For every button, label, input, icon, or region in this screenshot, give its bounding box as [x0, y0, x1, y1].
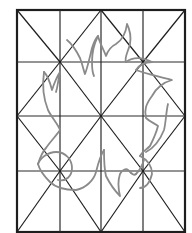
diagonal-line [60, 62, 101, 116]
flame-swirl [38, 152, 72, 180]
diagonal-line [60, 10, 101, 62]
flame-tongue [98, 24, 130, 62]
diagonal-line [143, 62, 185, 116]
diagonal-line [101, 116, 143, 171]
diagonal-line [17, 171, 60, 232]
diagonal-line [60, 116, 101, 171]
flame-tongue [44, 72, 60, 92]
flame-tongue [67, 36, 98, 76]
diagonal-line [143, 10, 185, 62]
diagonal-line [60, 171, 101, 232]
diagonal-line [17, 10, 60, 62]
pattern-diagram [0, 0, 192, 233]
diagonal-line [17, 62, 60, 116]
